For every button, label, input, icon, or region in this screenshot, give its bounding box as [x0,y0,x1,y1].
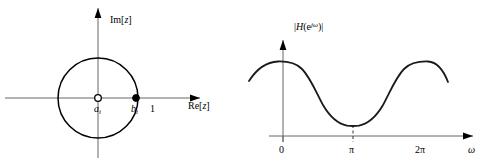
magnitude-response-panel: |H(ejω)| 0 π 2π ω [0,0,493,165]
mag-bar-close: | [321,21,323,32]
omega-axis [269,133,473,140]
xtick-label-pi: π [349,145,354,155]
magnitude-axis-label: |H(ejω)| [294,22,323,32]
figure-container: Im[z] Re[z] ai bi 1 [0,0,493,165]
magnitude-response-svg [0,0,493,165]
omega-axis-label: ω [468,145,475,155]
mag-exponent: jω [311,21,318,29]
xtick-label-2pi: 2π [415,145,425,155]
magnitude-curve [249,61,448,125]
magnitude-axis [280,40,287,142]
xtick-label-0: 0 [279,145,284,155]
